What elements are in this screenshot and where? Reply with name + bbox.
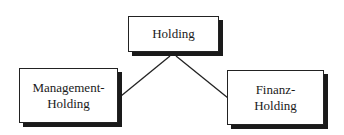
node-finanz-holding-label-line2: Holding: [254, 98, 297, 114]
node-holding-label: Holding: [152, 26, 195, 42]
node-finanz-holding-label-line1: Finanz-: [256, 82, 296, 98]
diagram-canvas: Holding Management- Holding Finanz- Hold…: [0, 0, 344, 135]
node-holding: Holding: [128, 16, 219, 52]
edge-holding-to-management-holding: [121, 56, 170, 96]
node-management-holding: Management- Holding: [19, 68, 118, 123]
node-management-holding-label-line1: Management-: [32, 80, 104, 96]
edge-holding-to-finanz-holding: [176, 56, 228, 98]
node-finanz-holding: Finanz- Holding: [227, 70, 324, 125]
node-management-holding-label-line2: Holding: [47, 96, 90, 112]
